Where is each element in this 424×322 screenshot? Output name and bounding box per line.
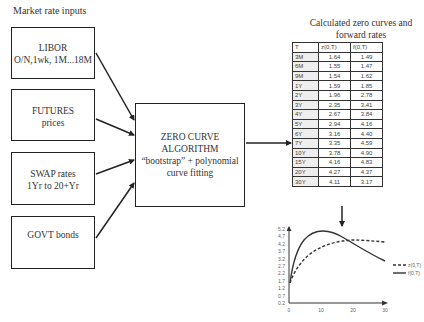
rates-line-chart: 5.2 4.7 4.2 3.7 3.2 2.7 2.2 1.7 1.2 0.7 … [278,226,421,313]
x-tick-labels: 0 10 20 30 [288,307,388,313]
x-axis-arrow-icon [382,301,388,306]
forward-rate-line [290,231,385,283]
svg-text:30: 30 [382,307,388,313]
svg-text:4.7: 4.7 [278,233,285,239]
zero-rate-line [290,240,385,283]
svg-text:20: 20 [350,307,356,313]
govt-arrow [96,183,134,238]
chart-legend: z(0,T) f(0,T) [393,262,421,276]
svg-text:5.2: 5.2 [278,226,285,232]
legend-zero-label: z(0,T) [408,262,421,268]
svg-text:0.2: 0.2 [278,300,285,306]
futures-arrow [96,119,134,135]
svg-text:2.7: 2.7 [278,263,285,269]
svg-text:2.2: 2.2 [278,270,285,276]
y-tick-labels: 5.2 4.7 4.2 3.7 3.2 2.7 2.2 1.7 1.2 0.7 … [278,226,285,306]
diagram-arrows-and-chart: 5.2 4.7 4.2 3.7 3.2 2.7 2.2 1.7 1.2 0.7 … [0,0,424,322]
libor-arrow [96,53,134,120]
svg-text:0: 0 [288,307,291,313]
y-axis-arrow-icon [287,226,292,231]
swap-arrow [96,160,134,174]
svg-text:4.2: 4.2 [278,241,285,247]
svg-text:3.7: 3.7 [278,248,285,254]
svg-text:1.7: 1.7 [278,278,285,284]
svg-text:1.2: 1.2 [278,285,285,291]
svg-text:10: 10 [318,307,324,313]
legend-forward-label: f(0,T) [408,270,420,276]
svg-text:0.7: 0.7 [278,293,285,299]
svg-text:3.2: 3.2 [278,256,285,262]
